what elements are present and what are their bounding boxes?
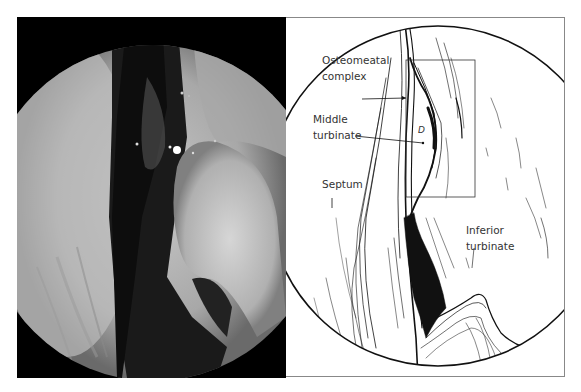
label-inferior-turbinate-line2: turbinate (466, 240, 514, 252)
label-middle-turbinate-line1: Middle (313, 113, 348, 125)
label-middle-turbinate-line2: turbinate (313, 129, 361, 141)
endoscopic-photo (17, 17, 286, 378)
label-inferior-turbinate-line1: Inferior (466, 224, 504, 236)
label-osteomeatal-line1: Osteomeatal (322, 54, 389, 66)
middle-turbinate-leader-line (355, 136, 423, 143)
label-osteomeatal-line2: complex (322, 70, 367, 82)
label-d-mark: D (418, 124, 425, 136)
osteomeatal-leader-line (362, 98, 406, 99)
label-septum: Septum (322, 178, 363, 190)
endoscopic-photo-image (17, 17, 286, 378)
